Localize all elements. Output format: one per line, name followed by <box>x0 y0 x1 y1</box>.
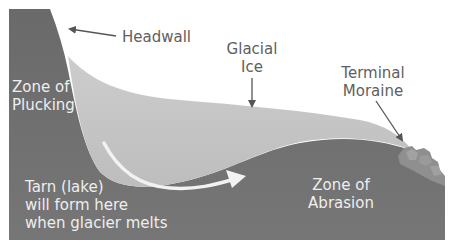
label-zone-of-plucking-line1: Zone of <box>12 78 70 96</box>
label-terminal-moraine-line1: Terminal <box>340 64 404 82</box>
headwall-pointer <box>70 29 116 36</box>
label-glacial-ice-line2: Ice <box>241 58 263 76</box>
label-zone-of-plucking-line2: Plucking <box>12 96 75 114</box>
label-terminal-moraine-line2: Moraine <box>343 82 403 100</box>
label-zone-of-abrasion-line1: Zone of <box>312 176 370 194</box>
label-headwall: Headwall <box>122 28 191 46</box>
label-glacial-ice-line1: Glacial <box>227 40 278 58</box>
label-tarn-line3: when glacier melts <box>25 214 168 232</box>
glacier-diagram: Headwall Glacial Ice Terminal Moraine Zo… <box>0 0 452 249</box>
label-zone-of-abrasion-line2: Abrasion <box>308 194 374 212</box>
label-tarn-line1: Tarn (lake) <box>24 178 104 196</box>
label-tarn-line2: will form here <box>25 196 128 214</box>
